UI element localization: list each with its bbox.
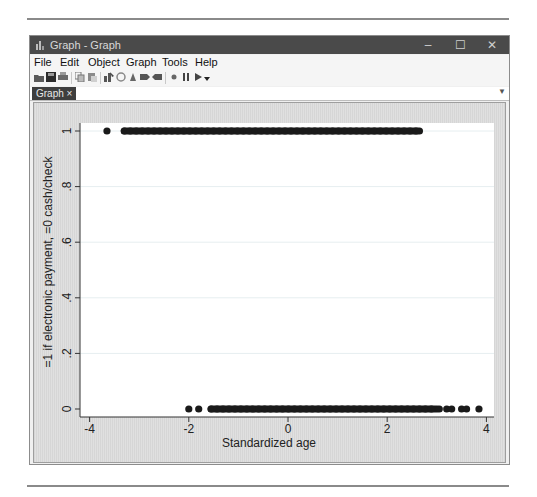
tab-close-icon[interactable]: × bbox=[67, 88, 73, 99]
menu-edit[interactable]: Edit bbox=[60, 56, 79, 68]
y-tick-label: 1 bbox=[60, 127, 74, 134]
close-button[interactable]: ✕ bbox=[477, 36, 507, 54]
play-icon[interactable] bbox=[193, 72, 203, 82]
toolbar-separator bbox=[100, 72, 101, 84]
y-tick-label: .4 bbox=[60, 292, 74, 302]
data-point bbox=[185, 405, 192, 412]
title-bar[interactable]: Graph - Graph – ☐ ✕ bbox=[30, 36, 509, 54]
toolbar-separator bbox=[165, 72, 166, 84]
data-point bbox=[475, 405, 482, 412]
paste-icon[interactable] bbox=[87, 72, 97, 82]
x-tick-label: -2 bbox=[183, 422, 194, 436]
forward-icon[interactable] bbox=[152, 72, 162, 82]
menu-object[interactable]: Object bbox=[88, 56, 120, 68]
toolbar-separator bbox=[71, 72, 72, 84]
dropdown-icon[interactable] bbox=[204, 76, 210, 82]
menu-graph[interactable]: Graph bbox=[126, 56, 157, 68]
save-icon[interactable] bbox=[46, 72, 56, 82]
data-point bbox=[448, 405, 455, 412]
graph-window: Graph - Graph – ☐ ✕ File Edit Object Gra… bbox=[29, 35, 510, 465]
copy-icon[interactable] bbox=[75, 72, 85, 82]
record-icon[interactable] bbox=[169, 72, 179, 82]
data-point bbox=[463, 405, 470, 412]
data-point bbox=[412, 127, 419, 134]
page-divider-top bbox=[27, 18, 509, 20]
y-tick-label: .2 bbox=[60, 348, 74, 358]
print-icon[interactable] bbox=[58, 72, 68, 82]
rename-icon[interactable] bbox=[116, 72, 126, 82]
back-icon[interactable] bbox=[140, 72, 150, 82]
menu-help[interactable]: Help bbox=[195, 56, 218, 68]
tab-graph[interactable]: Graph × bbox=[32, 87, 76, 100]
x-tick-label: 4 bbox=[483, 422, 490, 436]
x-axis-label: Standardized age bbox=[222, 436, 316, 450]
pause-icon[interactable] bbox=[181, 72, 191, 82]
open-icon[interactable] bbox=[34, 72, 44, 82]
y-tick-label: 0 bbox=[60, 405, 74, 412]
menu-tools[interactable]: Tools bbox=[162, 56, 188, 68]
menu-file[interactable]: File bbox=[34, 56, 52, 68]
minimize-button[interactable]: – bbox=[413, 36, 443, 54]
toolbar bbox=[30, 70, 509, 86]
data-point bbox=[436, 405, 443, 412]
scatter-plot: 0.2.4.6.81-4-2024Standardized age=1 if e… bbox=[34, 103, 507, 464]
recorder-icon[interactable] bbox=[128, 72, 138, 82]
y-tick-label: .6 bbox=[60, 237, 74, 247]
window-title: Graph - Graph bbox=[50, 39, 121, 51]
menu-bar: File Edit Object Graph Tools Help bbox=[30, 55, 509, 70]
data-point bbox=[103, 127, 110, 134]
tab-list-dropdown-icon[interactable]: ▼ bbox=[498, 87, 506, 96]
graph-pane: 0.2.4.6.81-4-2024Standardized age=1 if e… bbox=[33, 102, 506, 463]
y-tick-label: .8 bbox=[60, 181, 74, 191]
tab-bar: Graph × ▼ bbox=[30, 87, 509, 101]
data-point bbox=[195, 405, 202, 412]
stata-graph-icon bbox=[35, 39, 47, 51]
tab-label: Graph bbox=[36, 88, 64, 99]
maximize-button[interactable]: ☐ bbox=[445, 36, 475, 54]
x-tick-label: 2 bbox=[384, 422, 391, 436]
data-point bbox=[428, 405, 435, 412]
x-tick-label: 0 bbox=[285, 422, 292, 436]
page-divider-bottom bbox=[27, 485, 509, 487]
y-axis-label: =1 if electronic payment, =0 cash/check bbox=[41, 156, 55, 368]
plot-area bbox=[80, 123, 494, 417]
x-tick-label: -4 bbox=[84, 422, 95, 436]
graph-editor-icon[interactable] bbox=[104, 72, 114, 82]
